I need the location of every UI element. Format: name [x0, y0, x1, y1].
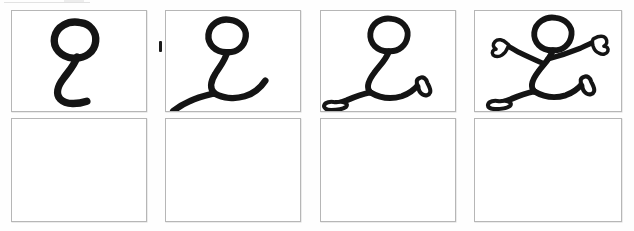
storyboard-sheet [0, 0, 634, 231]
storyboard-panel-1[interactable] [11, 10, 147, 112]
storyboard-panel-6[interactable] [165, 118, 301, 222]
drawing-head-spine-and-legs [166, 11, 300, 111]
drawing-head-and-spine [12, 11, 146, 111]
storyboard-panel-3[interactable] [320, 10, 456, 112]
drawing-complete-running-figure [475, 11, 621, 111]
storyboard-panel-2[interactable] [165, 10, 301, 112]
panel-grid [0, 0, 634, 231]
drawing-figure-with-shoes [321, 11, 455, 111]
storyboard-panel-8[interactable] [474, 118, 622, 222]
storyboard-panel-5[interactable] [11, 118, 147, 222]
storyboard-panel-4[interactable] [474, 10, 622, 112]
stray-ink-mark [159, 41, 162, 52]
storyboard-panel-7[interactable] [320, 118, 456, 222]
